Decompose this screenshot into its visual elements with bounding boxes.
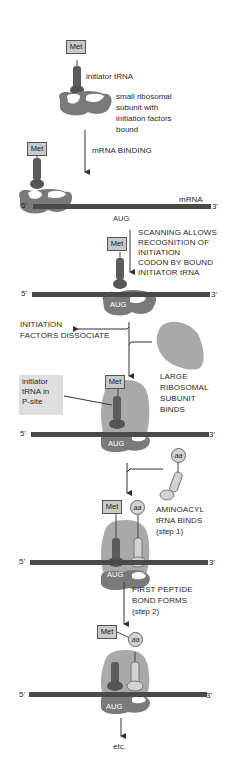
small-subunit-icon <box>59 91 112 115</box>
callout-line-1: initiator <box>22 377 60 387</box>
small-subunit-label-2: subunit with <box>116 103 158 113</box>
three-prime-label: 3' <box>212 202 218 211</box>
aug-codon-label: AUG <box>106 702 122 711</box>
mrna-strand <box>31 432 209 437</box>
scanning-label-5: INITIATOR tRNA <box>138 268 200 278</box>
scanning-label-3: INITIATION <box>138 248 180 258</box>
large-subunit-label-1: LARGE <box>160 372 188 382</box>
aug-codon-label: AUG <box>110 300 126 309</box>
branch-arrows-stage5 <box>127 463 163 493</box>
initiator-trna-stem-icon <box>73 66 81 88</box>
peptide-bond-label-1: FIRST PEPTIDE <box>132 585 193 595</box>
large-subunit-icon <box>101 650 149 698</box>
met-label-box: Met <box>107 237 127 251</box>
five-prime-label: 5' <box>21 201 27 210</box>
initiator-trna-label: initiator tRNA <box>86 72 133 82</box>
mrna-binding-label: mRNA BINDING <box>92 146 152 156</box>
large-subunit-label-2: RIBOSOMAL <box>160 383 208 393</box>
aminoacyl-label-3: (step 1) <box>156 527 183 537</box>
aa-label-circle: aa <box>171 448 186 463</box>
met-label-box: Met <box>66 40 86 54</box>
aa-label-circle: aa <box>130 500 145 515</box>
five-prime-label: 5' <box>19 557 25 566</box>
mrna-strand <box>29 692 207 697</box>
aminoacyl-label-2: tRNA BINDS <box>156 516 202 526</box>
met-label-box: Met <box>27 142 47 156</box>
incoming-aminoacyl-trna <box>160 462 183 500</box>
small-subunit-label-4: bound <box>116 125 138 135</box>
callout-line-3: P-site <box>22 397 60 407</box>
three-prime-label: 3' <box>209 558 215 567</box>
peptide-bond-label-3: (step 2) <box>132 607 159 617</box>
callout-line-2: tRNA in <box>22 387 60 397</box>
aug-codon-label: AUG <box>107 570 123 579</box>
scanning-label-4: CODON BY BOUND <box>138 258 213 268</box>
aa-label-circle: aa <box>128 632 143 647</box>
initiator-trna-icon <box>113 396 121 420</box>
met-label-box: Met <box>105 375 125 389</box>
scanning-label-2: RECOGNITION OF <box>138 238 209 248</box>
p-site-callout-box: initiator tRNA in P-site <box>19 375 63 415</box>
small-subunit-label-3: initiation factors <box>116 114 172 124</box>
aminoacyl-label-1: AMINOACYL <box>156 505 204 515</box>
initiation-factors-label-2: FACTORS DISSOCIATE <box>20 331 110 341</box>
three-prime-label: 3' <box>206 691 212 700</box>
small-subunit-label-1: small ribosomal <box>116 92 172 102</box>
large-subunit-label-3: SUBUNIT <box>160 394 196 404</box>
five-prime-label: 5' <box>20 429 26 438</box>
aug-codon-label: AUG <box>113 214 129 223</box>
initiator-trna-icon <box>111 662 119 684</box>
met-label-box: Met <box>102 500 122 514</box>
peptide-bond-label-2: BOND FORMS <box>132 596 187 606</box>
large-subunit-label-4: BINDS <box>160 405 185 415</box>
three-prime-label: 3' <box>211 290 217 299</box>
initiator-trna-icon <box>33 158 41 180</box>
five-prime-label: 5' <box>21 289 27 298</box>
initiator-trna-icon <box>116 258 124 280</box>
initiation-factors-label-1: INITIATION <box>20 320 62 330</box>
mrna-label: mRNA <box>179 195 203 205</box>
three-prime-label: 3' <box>209 430 215 439</box>
mrna-strand <box>32 292 210 297</box>
stage1-complex <box>59 60 112 115</box>
etc-label: etc. <box>113 742 126 752</box>
large-subunit-icon <box>157 322 204 370</box>
met-label-box: Met <box>97 625 117 639</box>
scanning-label-1: SCANNING ALLOWS <box>138 228 217 238</box>
five-prime-label: 5' <box>19 690 25 699</box>
mrna-strand <box>30 560 208 565</box>
aug-codon-label: AUG <box>108 439 124 448</box>
initiator-trna-icon <box>112 538 120 560</box>
